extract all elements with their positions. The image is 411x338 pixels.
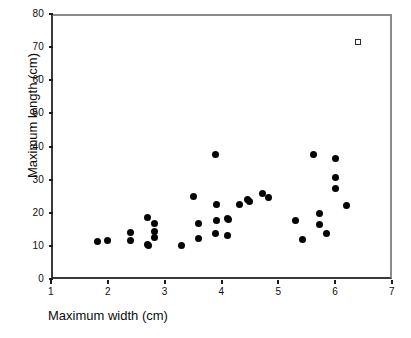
data-point [316,210,323,217]
data-point [94,238,101,245]
x-tick-label: 4 [212,287,232,297]
data-point [332,185,339,192]
data-point [224,232,231,239]
data-point [246,198,253,205]
y-tick-label: 10 [18,241,44,251]
x-tick-mark [107,280,109,284]
x-axis-label: Maximum width (cm) [48,308,168,323]
data-point [144,214,151,221]
data-point [332,174,339,181]
x-tick-mark [50,280,52,284]
data-point [151,234,158,241]
data-point [265,194,272,201]
data-point [190,193,197,200]
data-point [225,216,232,223]
x-tick-mark [277,280,279,284]
x-tick-label: 2 [98,287,118,297]
scatter-plot-figure: 01020304050607080 1234567 Maximum length… [0,0,411,338]
data-point [343,202,350,209]
data-point [355,39,361,45]
data-point [151,220,158,227]
data-point [104,237,111,244]
data-point [145,242,152,249]
data-point [316,221,323,228]
data-point [127,229,134,236]
x-tick-label: 1 [41,287,61,297]
y-tick-label: 0 [18,274,44,284]
y-axis-label: Maximum length (cm) [25,16,40,216]
data-point [213,217,220,224]
data-point [323,230,330,237]
data-point [213,201,220,208]
data-point [236,201,243,208]
x-tick-mark [164,280,166,284]
x-tick-label: 3 [155,287,175,297]
data-point [212,230,219,237]
x-tick-mark [221,280,223,284]
x-tick-label: 7 [382,287,402,297]
data-point [195,220,202,227]
plot-data-area [51,14,392,279]
data-point [310,151,317,158]
data-point [332,155,339,162]
data-point [292,217,299,224]
data-point [127,237,134,244]
x-tick-label: 6 [325,287,345,297]
x-tick-label: 5 [268,287,288,297]
data-point [212,151,219,158]
data-point [195,235,202,242]
data-point [299,236,306,243]
x-tick-mark [334,280,336,284]
data-point [178,242,185,249]
x-tick-mark [391,280,393,284]
